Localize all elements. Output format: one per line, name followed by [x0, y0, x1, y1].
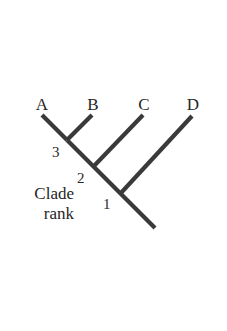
branch-C	[93, 115, 143, 167]
clade-rank-caption-line1: Clade	[6, 184, 74, 204]
node-label-1: 1	[103, 197, 111, 212]
tip-label-b: B	[81, 96, 105, 113]
cladogram-branches	[0, 0, 227, 331]
tip-label-c: C	[132, 96, 156, 113]
branch-A	[42, 115, 67, 140]
node-label-3: 3	[52, 145, 60, 160]
cladogram-figure: A B C D 1 2 3 Clade rank	[0, 0, 227, 331]
clade-rank-caption: Clade rank	[6, 184, 74, 224]
node-label-2: 2	[77, 171, 85, 186]
tip-label-a: A	[30, 96, 54, 113]
tip-label-d: D	[181, 96, 205, 113]
clade-rank-caption-line2: rank	[6, 204, 74, 224]
branch-B	[67, 115, 92, 140]
